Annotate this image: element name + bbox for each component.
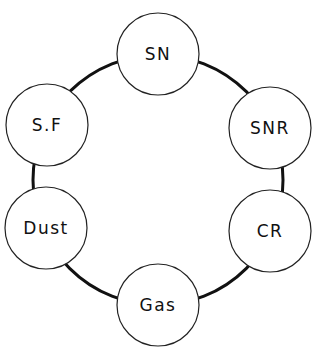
cycle-diagram: SNSNRCRGasDustS.F: [0, 0, 319, 355]
node-label: Dust: [23, 218, 68, 238]
node-sn: SN: [117, 13, 199, 95]
node-gas: Gas: [117, 264, 199, 346]
node-cr: CR: [229, 190, 311, 272]
node-label: SNR: [250, 118, 290, 138]
node-snr: SNR: [229, 87, 311, 169]
node-sf: S.F: [6, 84, 88, 166]
node-label: SN: [145, 44, 172, 64]
node-label: S.F: [32, 115, 62, 135]
node-label: Gas: [140, 295, 177, 315]
node-dust: Dust: [5, 187, 87, 269]
node-label: CR: [257, 221, 284, 241]
